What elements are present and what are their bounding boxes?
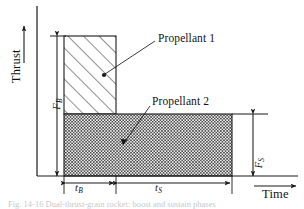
annotation-propellant-1: Propellant 1 (158, 33, 215, 45)
symbol-F-boost: F (51, 103, 62, 109)
subscript-B-boost: B (55, 98, 64, 103)
sustain-block-propellant-2 (64, 114, 232, 176)
dimension-label-F-S: FS (254, 148, 265, 178)
annotation-propellant-2: Propellant 2 (152, 96, 209, 108)
subscript-S-sustain: S (257, 158, 266, 162)
subscript-S-time: S (158, 186, 162, 195)
dimension-label-F-B: FB (52, 87, 63, 121)
subscript-B-time: B (78, 186, 83, 195)
dimension-label-t-B: tB (75, 183, 83, 194)
boost-block-propellant-1 (64, 36, 116, 114)
figure-thrust-vs-time: Thrust Time Propellant 1 Propellant 2 FB… (0, 0, 304, 209)
extension-lines (64, 176, 232, 194)
figure-caption: Fig. 14-16 Dual-thrust-grain rocket: boo… (8, 199, 298, 209)
y-axis-label: Thrust (10, 34, 23, 98)
symbol-F-sustain: F (253, 162, 264, 168)
dimension-label-t-S: tS (155, 183, 162, 194)
